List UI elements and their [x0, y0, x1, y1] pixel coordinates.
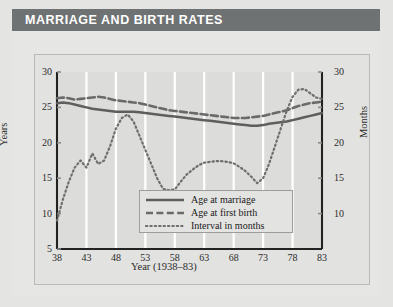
chart-page: MARRIAGE AND BIRTH RATES Years Months Ye…: [0, 0, 393, 307]
legend-label: Interval in months: [191, 221, 264, 231]
y-tick-label-right: 30: [328, 66, 350, 77]
legend-item: Interval in months: [145, 220, 288, 232]
y-tick-label-right: 10: [328, 208, 350, 219]
x-tick-label: 83: [311, 252, 333, 263]
legend-label: Age at first birth: [191, 208, 257, 218]
chart-title-bar: MARRIAGE AND BIRTH RATES: [12, 9, 380, 31]
legend-key-solid-line-icon: [145, 195, 185, 205]
y-tick-label-left: 30: [30, 66, 52, 77]
x-tick-label: 68: [223, 252, 245, 263]
legend-key-dotted-line-icon: [145, 221, 185, 231]
y-tick-label-left: 25: [30, 101, 52, 112]
y-tick-label-right: 15: [328, 172, 350, 183]
y-tick-label-left: 15: [30, 172, 52, 183]
x-tick-label: 48: [105, 252, 127, 263]
chart-legend: Age at marriage Age at first birth Inter…: [139, 190, 293, 233]
x-tick-label: 63: [193, 252, 215, 263]
page-title: MARRIAGE AND BIRTH RATES: [12, 13, 223, 27]
y-tick-label-left: 10: [30, 208, 52, 219]
legend-item: Age at first birth: [145, 207, 288, 219]
legend-label: Age at marriage: [191, 195, 255, 205]
x-tick-label: 78: [282, 252, 304, 263]
x-tick-label: 73: [252, 252, 274, 263]
x-tick-label: 38: [46, 252, 68, 263]
x-tick-label: 43: [75, 252, 97, 263]
x-tick-label: 58: [164, 252, 186, 263]
y-tick-label-right: 20: [328, 137, 350, 148]
legend-key-dashed-line-icon: [145, 208, 185, 218]
x-tick-label: 53: [134, 252, 156, 263]
y-tick-label-left: 20: [30, 137, 52, 148]
y-axis-title-right: Months: [358, 106, 369, 138]
y-axis-title-left: Years: [0, 123, 9, 146]
legend-item: Age at marriage: [145, 194, 288, 206]
figure-inner-frame: [34, 54, 370, 285]
y-tick-label-right: 25: [328, 101, 350, 112]
